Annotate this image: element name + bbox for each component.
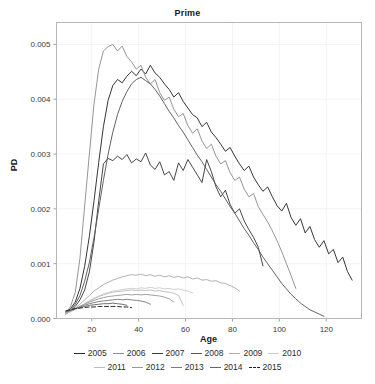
- legend-line-icon: [113, 353, 124, 354]
- legend-line-icon: [229, 353, 240, 354]
- chart-container: Prime PD Age 0.0000.0010.0020.0030.0040.…: [0, 0, 375, 384]
- legend-item-2010[interactable]: 2010: [268, 348, 301, 358]
- legend-item-2015[interactable]: 2015: [249, 362, 282, 372]
- tickmarks: [54, 44, 327, 321]
- legend-line-icon: [249, 367, 260, 368]
- legend-item-2005[interactable]: 2005: [74, 348, 107, 358]
- legend-label: 2014: [224, 362, 243, 372]
- x-tick-label: 120: [320, 325, 334, 334]
- legend-line-icon: [94, 367, 105, 368]
- legend-item-2008[interactable]: 2008: [191, 348, 224, 358]
- legend-item-2011[interactable]: 2011: [94, 362, 126, 372]
- y-tick-label: 0.000: [30, 315, 51, 324]
- x-tick-label: 80: [228, 325, 237, 334]
- x-tick-label: 100: [273, 325, 287, 334]
- y-tick-label: 0.005: [30, 40, 51, 49]
- series-group: [66, 44, 352, 316]
- legend-line-icon: [152, 353, 163, 354]
- legend-label: 2012: [146, 362, 165, 372]
- series-line-2012: [66, 294, 174, 312]
- series-line-2006: [66, 44, 296, 313]
- legend-item-2012[interactable]: 2012: [132, 362, 165, 372]
- legend-label: 2011: [108, 362, 126, 372]
- legend-label: 2010: [282, 348, 301, 358]
- legend-line-icon: [132, 367, 143, 368]
- x-tick-label: 60: [181, 325, 190, 334]
- legend-line-icon: [210, 367, 221, 368]
- legend-label: 2009: [243, 348, 262, 358]
- legend-line-icon: [268, 353, 279, 354]
- legend-item-2009[interactable]: 2009: [229, 348, 262, 358]
- legend-label: 2013: [185, 362, 204, 372]
- legend-row-1: 200520062007200820092010: [0, 346, 375, 360]
- legend: 2005200620072008200920102011201220132014…: [0, 346, 375, 374]
- x-tick-label: 20: [87, 325, 96, 334]
- legend-row-2: 20112012201320142015: [0, 360, 375, 374]
- series-line-2008: [66, 77, 324, 316]
- x-tick-label: 40: [134, 325, 143, 334]
- legend-item-2014[interactable]: 2014: [210, 362, 243, 372]
- series-line-2010: [66, 287, 193, 313]
- legend-label: 2008: [205, 348, 224, 358]
- legend-item-2006[interactable]: 2006: [113, 348, 146, 358]
- legend-label: 2006: [127, 348, 146, 358]
- y-tick-label: 0.002: [30, 205, 51, 214]
- legend-item-2007[interactable]: 2007: [152, 348, 185, 358]
- legend-line-icon: [74, 353, 85, 354]
- legend-line-icon: [191, 353, 202, 354]
- y-tick-label: 0.004: [30, 95, 51, 104]
- series-line-2005: [66, 65, 352, 312]
- plot-area: 0.0000.0010.0020.0030.0040.0052040608010…: [0, 0, 375, 384]
- y-tick-label: 0.003: [30, 150, 51, 159]
- legend-label: 2015: [263, 362, 282, 372]
- legend-label: 2007: [166, 348, 185, 358]
- legend-label: 2005: [88, 348, 107, 358]
- legend-item-2013[interactable]: 2013: [171, 362, 204, 372]
- y-tick-label: 0.001: [30, 260, 51, 269]
- legend-line-icon: [171, 367, 182, 368]
